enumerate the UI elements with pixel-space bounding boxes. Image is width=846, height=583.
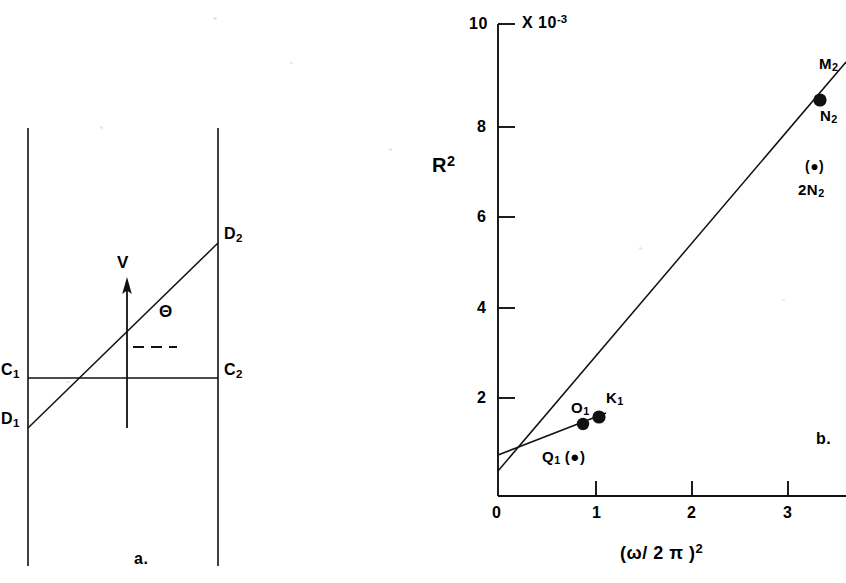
- y-tick-label-6: 6: [477, 209, 486, 225]
- scan-speck: [213, 17, 217, 20]
- scan-speck: [290, 62, 293, 64]
- point-label-o1-text: O: [571, 399, 583, 416]
- label-d1: D1: [1, 411, 19, 429]
- y-tick-label-8: 8: [477, 119, 486, 135]
- y-axis-title-exponent: 2: [447, 153, 455, 169]
- label-d2-text: D: [224, 225, 236, 242]
- panel-b-caption: b.: [816, 431, 831, 447]
- point-label-n2-sub: 2: [831, 113, 837, 125]
- y-axis-multiplier-text: X 10: [522, 14, 557, 31]
- label-c2-text: C: [224, 361, 236, 378]
- annotation-q1-suffix: (●): [560, 448, 585, 465]
- regression-line-main: [498, 62, 846, 471]
- panel-b: X 10-3 10 8 6 4 2 0 1 2 3 R2 (ω/ 2 π )2 …: [420, 0, 846, 583]
- data-point-markers: [577, 93, 827, 430]
- label-d2: D2: [224, 226, 242, 244]
- y-axis-title: R2: [432, 154, 455, 175]
- panel-a: V Θ D2 D1 C1 C2 a.: [0, 0, 420, 583]
- x-axis-title: (ω/ 2 π )2: [620, 543, 703, 562]
- point-label-m2: M2: [819, 56, 838, 73]
- y-axis-ticks: [498, 24, 515, 398]
- label-c2-sub: 2: [236, 368, 242, 380]
- annotation-2n2: 2N2: [798, 182, 824, 199]
- point-label-n2-text: N: [820, 107, 831, 124]
- x-tick-label-2: 2: [687, 505, 696, 521]
- figure-root: V Θ D2 D1 C1 C2 a.: [0, 0, 846, 583]
- scan-speck: [389, 148, 392, 151]
- point-label-n2: N2: [820, 108, 837, 125]
- point-label-k1-text: K: [606, 389, 617, 406]
- velocity-label: V: [117, 254, 129, 271]
- point-label-k1-sub: 1: [617, 395, 623, 407]
- y-axis-multiplier: X 10-3: [522, 14, 567, 31]
- label-d2-sub: 2: [236, 232, 242, 244]
- point-label-m2-sub: 2: [832, 61, 838, 73]
- scan-speck: [100, 126, 103, 129]
- point-label-o1: O1: [571, 400, 589, 417]
- label-d1-text: D: [1, 410, 13, 427]
- theta-label: Θ: [159, 303, 173, 320]
- label-c1: C1: [1, 362, 19, 380]
- x-axis-title-exponent: 2: [696, 541, 703, 556]
- point-label-k1: K1: [606, 390, 623, 407]
- panel-a-drawing: [0, 0, 420, 583]
- data-point-n2: [813, 93, 826, 106]
- annotation-q1: Q1 (●): [542, 449, 585, 466]
- annotation-2n2-text: 2N: [798, 181, 818, 198]
- point-label-m2-text: M: [819, 55, 832, 72]
- annotation-q1-text: Q: [542, 448, 554, 465]
- x-tick-label-1: 1: [592, 505, 601, 521]
- scan-speck: [66, 381, 70, 383]
- x-tick-label-0: 0: [492, 505, 501, 521]
- label-d1-sub: 1: [13, 417, 19, 429]
- y-tick-label-10: 10: [469, 16, 488, 32]
- label-c1-text: C: [1, 361, 13, 378]
- label-c2: C2: [224, 362, 242, 380]
- x-tick-label-3: 3: [783, 505, 792, 521]
- scan-speck: [782, 299, 785, 301]
- panel-b-chart: [420, 0, 846, 583]
- x-axis-title-text: (ω/ 2 π ): [620, 543, 696, 563]
- y-axis-title-text: R: [432, 154, 447, 176]
- y-tick-label-2: 2: [477, 390, 486, 406]
- panel-a-caption: a.: [134, 551, 148, 567]
- data-point-k1: [592, 410, 605, 423]
- scan-speck: [639, 247, 642, 250]
- label-c1-sub: 1: [13, 368, 19, 380]
- y-tick-label-4: 4: [477, 300, 486, 316]
- data-point-o1: [577, 418, 589, 430]
- y-axis-multiplier-exponent: -3: [557, 13, 567, 25]
- annotation-2n2-marker: (●): [805, 159, 824, 173]
- x-axis-ticks: [596, 481, 788, 496]
- point-label-o1-sub: 1: [583, 405, 589, 417]
- annotation-2n2-sub: 2: [818, 187, 824, 199]
